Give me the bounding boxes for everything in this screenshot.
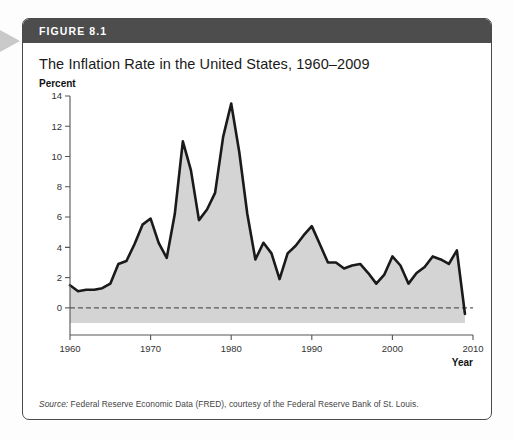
y-tick-label: 12 (51, 121, 62, 132)
x-tick-label: 1960 (59, 343, 80, 354)
figure-card: FIGURE 8.1 The Inflation Rate in the Uni… (22, 18, 492, 420)
figure-number-label: FIGURE 8.1 (39, 25, 107, 37)
x-axis-title: Year (452, 357, 473, 368)
inflation-area-chart: 02468101214196019701980199020002010Year (23, 78, 491, 368)
x-tick-label: 1990 (301, 343, 322, 354)
y-tick-label: 0 (57, 302, 62, 313)
y-tick-label: 8 (57, 181, 62, 192)
y-tick-label: 6 (57, 211, 62, 222)
figure-banner: FIGURE 8.1 (23, 19, 491, 43)
chart-area: Percent 02468101214196019701980199020002… (23, 78, 491, 368)
y-tick-label: 2 (57, 272, 62, 283)
x-tick-label: 1970 (140, 343, 161, 354)
x-tick-label: 2000 (382, 343, 403, 354)
x-tick-label: 2010 (462, 343, 483, 354)
figure-title: The Inflation Rate in the United States,… (23, 43, 491, 72)
left-margin-arrow-icon (0, 30, 20, 52)
page-root: FIGURE 8.1 The Inflation Rate in the Uni… (0, 0, 514, 440)
y-tick-label: 4 (57, 242, 62, 253)
source-lead: Source: (39, 399, 68, 409)
y-tick-label: 10 (51, 151, 62, 162)
y-tick-label: 14 (51, 90, 62, 101)
source-note: Source: Federal Reserve Economic Data (F… (39, 399, 419, 409)
x-tick-label: 1980 (221, 343, 242, 354)
source-text: Federal Reserve Economic Data (FRED), co… (68, 399, 418, 409)
